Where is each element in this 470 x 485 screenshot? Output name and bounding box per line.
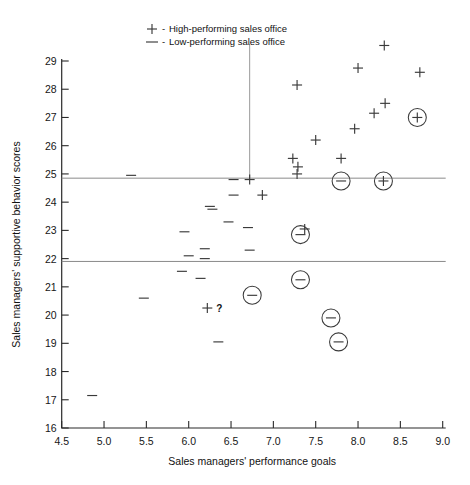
y-tick-label: 19: [45, 337, 57, 349]
y-tick-label: 26: [45, 140, 57, 152]
axis-lines: [62, 59, 446, 428]
question-mark: ?: [216, 303, 222, 314]
x-tick-label: 7.5: [308, 435, 323, 447]
x-tick-label: 6.0: [181, 435, 196, 447]
y-tick-label: 17: [45, 394, 57, 406]
y-axis-title: Sales managers' supportive behavior scor…: [10, 141, 22, 347]
y-tick-label: 21: [45, 281, 57, 293]
x-tick-label: 8.5: [393, 435, 408, 447]
x-axis-title: Sales managers' performance goals: [168, 455, 336, 467]
y-tick-label: 18: [45, 366, 57, 378]
x-tick-label: 8.0: [351, 435, 366, 447]
y-tick-label: 16: [45, 422, 57, 434]
y-tick-label: 22: [45, 253, 57, 265]
x-tick-label: 5.5: [139, 435, 154, 447]
legend-label: Low-performing sales office: [169, 36, 285, 47]
legend-dash: -: [162, 36, 165, 47]
legend-label: High-performing sales office: [169, 23, 287, 34]
y-tick-label: 27: [45, 111, 57, 123]
y-tick-label: 24: [45, 196, 57, 208]
x-tick-label: 4.5: [54, 435, 69, 447]
y-tick-label: 23: [45, 224, 57, 236]
x-tick-label: 9.0: [435, 435, 450, 447]
y-tick-label: 25: [45, 168, 57, 180]
x-tick-label: 6.5: [224, 435, 239, 447]
x-tick-label: 5.0: [97, 435, 112, 447]
x-tick-label: 7.0: [266, 435, 281, 447]
scatter-plot-figure: 16171819202122232425262728294.55.05.56.0…: [0, 0, 470, 485]
y-tick-label: 28: [45, 83, 57, 95]
legend-dash: -: [162, 23, 165, 34]
y-tick-label: 29: [45, 55, 57, 67]
y-tick-label: 20: [45, 309, 57, 321]
plot-canvas: 16171819202122232425262728294.55.05.56.0…: [0, 0, 470, 485]
